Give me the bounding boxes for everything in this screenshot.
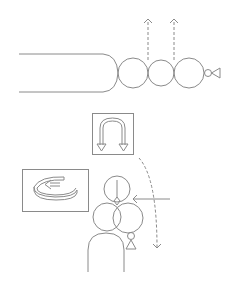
chain-circle-3 <box>174 58 204 88</box>
chain-circle-2 <box>148 60 174 86</box>
end-small-circle-bottom <box>128 233 135 240</box>
diagram-canvas <box>0 0 237 295</box>
folded-circle-right <box>113 203 143 233</box>
dashed-curved-arrow <box>139 158 157 248</box>
folded-circle-left <box>93 203 121 231</box>
u-turn-icon-box <box>93 114 134 155</box>
end-small-circle <box>205 70 212 77</box>
end-triangle <box>212 68 221 78</box>
rotation-icon-box <box>23 170 89 212</box>
vertical-body <box>88 233 124 272</box>
rotate-counterclockwise-icon <box>34 177 77 200</box>
u-turn-arrow-icon <box>97 118 128 151</box>
end-triangle-bottom <box>126 240 136 249</box>
bottom-vertical-assembly <box>88 158 170 272</box>
center-diamond <box>114 197 120 205</box>
elongated-body <box>19 54 118 92</box>
chain-circle-1 <box>118 58 148 88</box>
top-horizontal-assembly <box>19 19 220 92</box>
